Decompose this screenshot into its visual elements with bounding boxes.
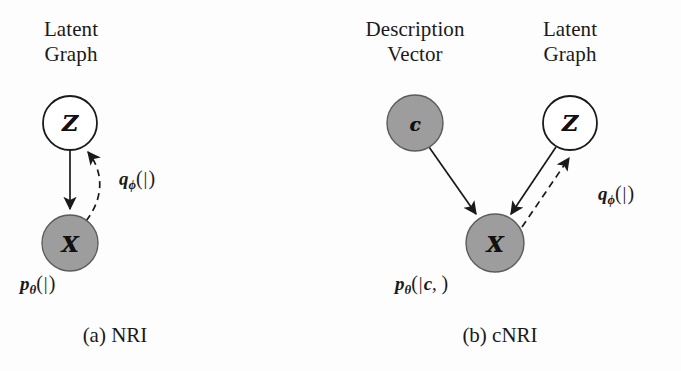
node-latent-graph-z — [543, 96, 597, 150]
panel-nri: Z X Latent Graph qϕ(𝊁|𝉻) pθ(𝉻|𝊁) (a) NRI — [0, 0, 340, 371]
formula-inference-q: qϕ(𝊁|𝉻) — [119, 167, 155, 193]
node-description-vector-c — [387, 95, 443, 151]
panel-cnri: c Z X Description Vector Latent Graph qϕ… — [340, 0, 681, 371]
formula-inference-q: qϕ(𝊁|𝉻) — [598, 182, 634, 208]
edge-z-to-x — [511, 147, 556, 214]
caption-panel-b: (b) cNRI — [385, 323, 615, 348]
formula-generative-p: pθ(𝉻|c, 𝊁) — [395, 272, 448, 298]
label-latent-graph-line2: Graph — [0, 42, 142, 67]
edge-c-to-x — [429, 147, 476, 214]
edge-x-to-z-dashed — [86, 152, 100, 221]
node-latent-graph-z — [43, 96, 97, 150]
label-latent-graph-line1: Latent — [44, 17, 98, 41]
formula-generative-p: pθ(𝉻|𝊁) — [20, 272, 55, 298]
caption-panel-a: (a) NRI — [0, 323, 230, 348]
figure-nri-cnri-graphical-models: Z X Latent Graph qϕ(𝊁|𝉻) pθ(𝉻|𝊁) (a) NRI — [0, 0, 681, 371]
edge-x-to-z-dashed — [522, 158, 569, 227]
label-latent-graph-line2: Graph — [500, 42, 640, 67]
node-observed-x — [42, 215, 98, 271]
label-description-vector-line2: Vector — [340, 42, 490, 67]
node-observed-x — [466, 214, 524, 272]
label-latent-graph-line1: Latent — [543, 17, 597, 41]
label-description-vector-line1: Description — [365, 17, 464, 41]
label-description-vector: Description Vector — [340, 17, 490, 67]
label-latent-graph: Latent Graph — [500, 17, 640, 67]
label-latent-graph: Latent Graph — [0, 17, 142, 67]
